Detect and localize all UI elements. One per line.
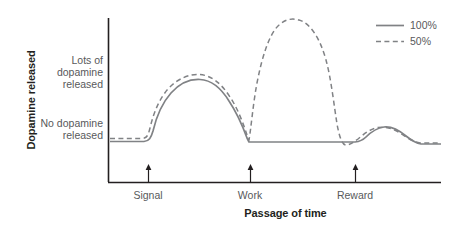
event-marker-reward: [353, 164, 359, 182]
series-line-100-percent: [110, 79, 441, 144]
legend-label-100-percent: 100%: [410, 19, 437, 31]
y-tick-label-low: No dopamine released: [27, 118, 103, 142]
dopamine-release-chart: Dopamine released Passage of time Lots o…: [0, 0, 463, 240]
event-marker-work: [248, 164, 254, 182]
x-tick-label-work: Work: [205, 189, 295, 201]
x-tick-label-signal: Signal: [103, 189, 193, 201]
series-line-50-percent: [110, 19, 441, 145]
legend-label-50-percent: 50%: [410, 35, 431, 47]
x-tick-label-reward: Reward: [310, 189, 400, 201]
y-axis-title: Dopamine released: [25, 25, 37, 175]
event-marker-signal: [146, 164, 152, 182]
x-axis-title: Passage of time: [188, 207, 383, 219]
y-tick-label-high: Lots of dopamine released: [27, 55, 103, 90]
